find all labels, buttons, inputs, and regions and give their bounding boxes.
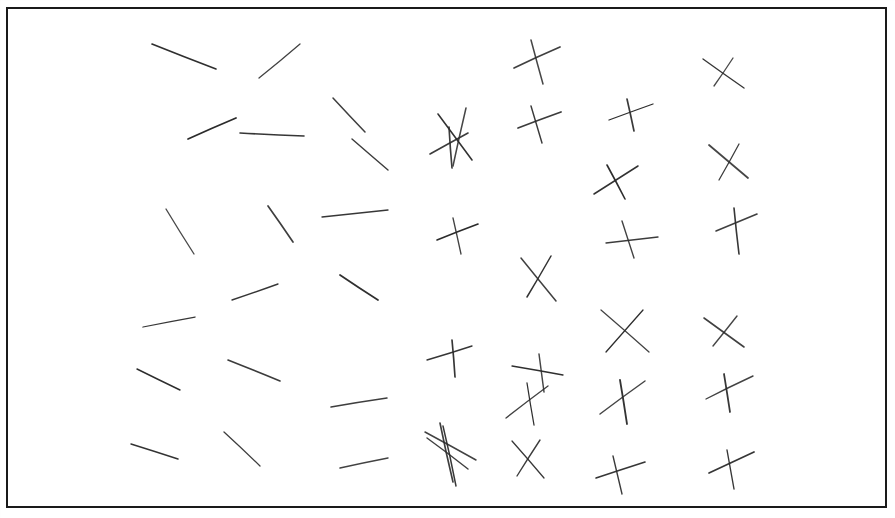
figure-root (0, 0, 895, 518)
canvas-background (0, 0, 895, 518)
stimulus-canvas (0, 0, 895, 518)
